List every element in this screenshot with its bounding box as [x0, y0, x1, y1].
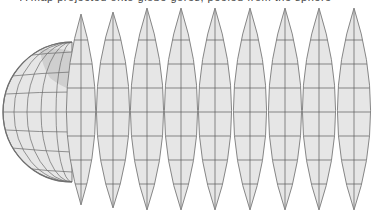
gores-group	[64, 8, 372, 210]
gore-9	[335, 8, 372, 210]
gore-8	[300, 8, 338, 210]
globe-gores-figure	[0, 0, 372, 217]
gore-3	[128, 8, 166, 210]
gore-5	[196, 8, 234, 210]
gore-4	[162, 8, 200, 210]
gore-7	[266, 8, 304, 210]
gore-2	[94, 12, 132, 208]
gore-6	[231, 8, 269, 210]
